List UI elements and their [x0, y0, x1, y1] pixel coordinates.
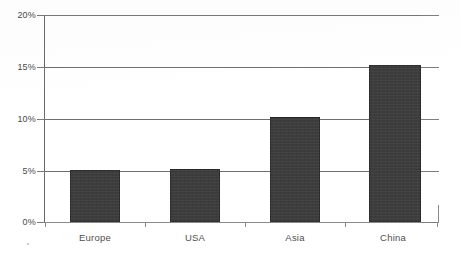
xtick-mark-4: [437, 222, 438, 227]
gridline-10: [44, 119, 421, 120]
ytick-mark-0: [37, 222, 44, 223]
xtick-mark-0: [45, 222, 46, 227]
ytick-mark-20: [37, 15, 44, 16]
xtick-label-usa: USA: [185, 232, 205, 243]
x-axis-line: [44, 222, 421, 223]
gridline-20: [44, 15, 421, 16]
ytick-mark-right-10: [421, 119, 439, 120]
bar-asia: [270, 117, 320, 222]
ytick-label-5: 5%: [23, 166, 36, 176]
ytick-mark-right-5: [421, 171, 439, 172]
ytick-mark-right-20: [421, 15, 439, 16]
xtick-label-china: China: [380, 232, 406, 243]
xtick-label-europe: Europe: [79, 232, 111, 243]
xtick-mark-1: [145, 222, 146, 227]
bar-chart: 20% 15% 10% 5% 0% Europe USA Asia China: [0, 0, 460, 256]
ytick-label-20: 20%: [17, 10, 36, 20]
bar-usa: [170, 169, 220, 222]
bar-europe: [70, 170, 120, 222]
ytick-mark-15: [37, 67, 44, 68]
xtick-label-asia: Asia: [285, 232, 304, 243]
gridline-15: [44, 67, 421, 68]
ytick-mark-right-15: [421, 67, 439, 68]
scan-speck: [27, 243, 29, 245]
ytick-label-15: 15%: [17, 62, 36, 72]
ytick-label-10: 10%: [17, 114, 36, 124]
bar-china: [369, 65, 421, 222]
xtick-mark-2: [245, 222, 246, 227]
ytick-label-0: 0%: [23, 217, 36, 227]
plot-right-border: [438, 205, 439, 223]
xtick-mark-3: [345, 222, 346, 227]
ytick-mark-5: [37, 171, 44, 172]
ytick-mark-10: [37, 119, 44, 120]
